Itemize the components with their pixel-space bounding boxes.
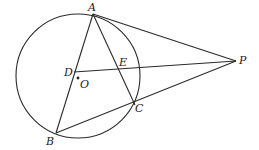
label-d: D <box>63 66 73 79</box>
label-a: A <box>87 1 96 14</box>
label-b: B <box>45 135 54 148</box>
center-point-o <box>77 77 80 80</box>
label-c: C <box>135 102 144 115</box>
segment-ab <box>56 14 93 133</box>
geometry-diagram: A B C D E O P <box>0 0 259 150</box>
label-o: O <box>80 78 89 91</box>
segment-ap <box>93 14 236 61</box>
segment-ac <box>93 14 135 105</box>
label-p: P <box>238 54 247 67</box>
label-e: E <box>118 56 127 69</box>
